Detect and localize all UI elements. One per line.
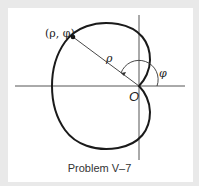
point-label: (ρ, φ) xyxy=(45,27,75,40)
origin-label: O xyxy=(129,89,139,104)
angle-label: φ xyxy=(159,67,167,80)
radius-label: ρ xyxy=(106,52,112,65)
angle-arc xyxy=(121,60,158,86)
figure-caption: Problem V–7 xyxy=(0,162,199,174)
polar-diagram xyxy=(0,0,199,186)
